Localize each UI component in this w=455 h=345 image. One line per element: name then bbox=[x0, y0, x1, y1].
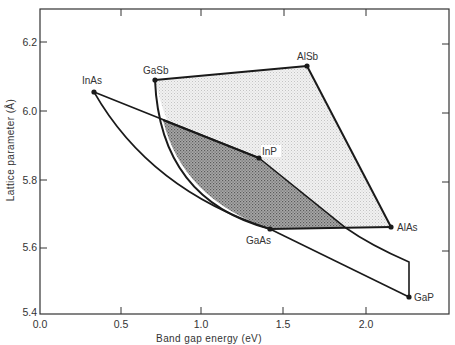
point-alas bbox=[388, 224, 393, 229]
lattice-vs-bandgap-chart: 0.0 0.5 1.0 1.5 2.0 5.4 5.6 5.8 6.0 6.2 … bbox=[0, 0, 455, 345]
x-axis-title: Band gap energy (eV) bbox=[156, 333, 262, 344]
label-alsb: AlSb bbox=[297, 51, 319, 62]
x-tick-labels: 0.0 0.5 1.0 1.5 2.0 bbox=[33, 318, 374, 330]
y-tick-5-6: 5.6 bbox=[22, 241, 37, 253]
y-tick-5-4: 5.4 bbox=[22, 306, 37, 318]
y-tick-6-0: 6.0 bbox=[22, 105, 37, 117]
label-inp: InP bbox=[262, 146, 277, 157]
y-axis-title: Lattice parameter (Å) bbox=[4, 99, 16, 201]
line-gaas-gap bbox=[270, 229, 409, 297]
point-gaas bbox=[267, 226, 272, 231]
x-tick-1-0: 1.0 bbox=[194, 318, 209, 330]
label-gaas: GaAs bbox=[246, 235, 271, 246]
point-alsb bbox=[304, 63, 309, 68]
x-tick-0-5: 0.5 bbox=[114, 318, 129, 330]
label-inas: InAs bbox=[82, 75, 102, 86]
label-gasb: GaSb bbox=[143, 65, 169, 76]
x-tick-0: 0.0 bbox=[33, 318, 48, 330]
x-tick-2-0: 2.0 bbox=[359, 318, 374, 330]
y-tick-5-8: 5.8 bbox=[22, 174, 37, 186]
label-gap: GaP bbox=[414, 292, 434, 303]
point-inas bbox=[91, 89, 96, 94]
x-tick-1-5: 1.5 bbox=[276, 318, 291, 330]
point-gap bbox=[406, 294, 411, 299]
label-alas: AlAs bbox=[397, 222, 418, 233]
point-inp bbox=[256, 155, 261, 160]
y-tick-6-2: 6.2 bbox=[22, 36, 37, 48]
y-tick-labels: 5.4 5.6 5.8 6.0 6.2 bbox=[22, 36, 37, 318]
point-gasb bbox=[152, 77, 157, 82]
